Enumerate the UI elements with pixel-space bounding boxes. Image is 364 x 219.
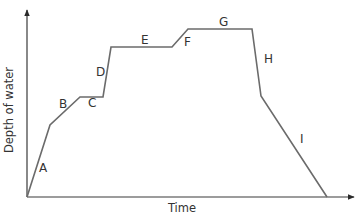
y-axis-label: Depth of water: [2, 67, 16, 153]
segment-label-i: I: [300, 132, 304, 146]
segment-label-h: H: [264, 52, 273, 66]
segment-label-f: F: [184, 35, 191, 49]
segment-label-d: D: [96, 65, 105, 79]
segment-label-a: A: [39, 161, 48, 175]
depth-curve: [27, 29, 327, 197]
segment-label-e: E: [141, 33, 149, 47]
x-axis-label: Time: [167, 201, 196, 215]
segment-label-g: G: [219, 15, 228, 29]
segment-labels: ABCDEFGHI: [39, 15, 304, 175]
segment-label-c: C: [88, 96, 96, 110]
depth-time-chart: ABCDEFGHI Time Depth of water: [0, 0, 364, 219]
segment-label-b: B: [59, 97, 67, 111]
